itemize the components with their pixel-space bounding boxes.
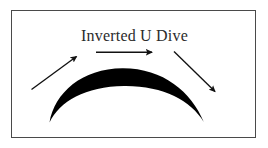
figure-title: Inverted U Dive (12, 27, 257, 45)
ascent-arrow-line (32, 57, 77, 90)
figure-root: Inverted U Dive (0, 0, 268, 148)
figure-border-frame: Inverted U Dive (11, 10, 256, 138)
descent-arrow-line (174, 52, 215, 92)
inverted-u-crescent-shape (50, 68, 204, 122)
